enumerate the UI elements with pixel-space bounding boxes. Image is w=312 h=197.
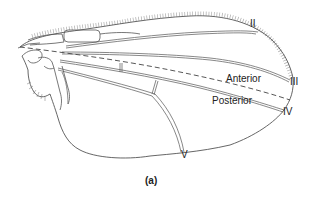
vein-label-iii: III bbox=[290, 77, 298, 87]
posterior-label: Posterior bbox=[212, 96, 252, 106]
figure-caption: (a) bbox=[145, 176, 157, 186]
wing-drawing bbox=[0, 0, 312, 197]
wing-diagram: II III IV V Anterior Posterior (a) bbox=[0, 0, 312, 197]
vein-label-iv: IV bbox=[283, 107, 292, 117]
vein-label-ii: II bbox=[250, 19, 256, 29]
vein-label-v: V bbox=[181, 150, 188, 160]
alula-bristles bbox=[27, 82, 45, 101]
anterior-label: Anterior bbox=[226, 74, 261, 84]
